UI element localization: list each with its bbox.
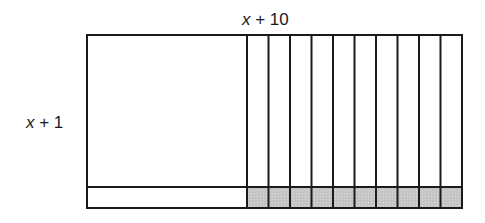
- unit-square: [376, 187, 398, 208]
- unit-square: [398, 187, 420, 208]
- unit-square: [247, 187, 269, 208]
- unit-square: [290, 187, 312, 208]
- unit-square: [355, 187, 377, 208]
- unit-square: [312, 187, 334, 208]
- outer-rectangle: [87, 35, 462, 208]
- area-model-diagram: [0, 0, 485, 223]
- unit-square: [441, 187, 463, 208]
- unit-square: [269, 187, 291, 208]
- unit-square: [333, 187, 355, 208]
- grid-lines: [87, 35, 462, 208]
- unit-square: [419, 187, 441, 208]
